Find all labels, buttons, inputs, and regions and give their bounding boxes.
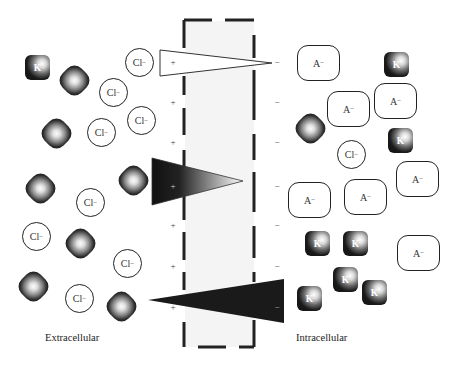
- chloride-ion: Cl−: [113, 249, 142, 278]
- plus-sign: +: [169, 97, 177, 107]
- chloride-ion: Cl−: [125, 48, 154, 77]
- potassium-ion: K: [362, 280, 387, 305]
- anion: A−: [288, 182, 331, 218]
- chloride-ion: Cl−: [76, 188, 105, 217]
- plus-sign: +: [169, 302, 177, 312]
- potassium-ion: K: [384, 52, 409, 77]
- minus-sign: −: [273, 57, 281, 67]
- extracellular-label: Extracellular: [45, 332, 99, 343]
- minus-sign: −: [273, 220, 281, 230]
- potassium-ion: K: [333, 267, 358, 292]
- minus-sign: −: [273, 137, 281, 147]
- anion: A−: [297, 45, 340, 81]
- membrane-potential-diagram: + + + + + + + − − − − − − − K Na Cl− Cl−…: [0, 0, 458, 365]
- plus-sign: +: [169, 220, 177, 230]
- sodium-gradient-triangle: [152, 158, 243, 205]
- anion: A−: [327, 91, 370, 127]
- minus-sign: −: [273, 261, 281, 271]
- plus-sign: +: [169, 261, 177, 271]
- chloride-ion: Cl−: [99, 78, 128, 107]
- chloride-ion: Cl−: [65, 284, 94, 313]
- plus-sign: +: [169, 137, 177, 147]
- plus-sign: +: [169, 181, 177, 191]
- potassium-gradient-triangle: [148, 279, 284, 323]
- intracellular-label: Intracellular: [296, 332, 347, 343]
- chloride-ion: Cl−: [22, 222, 51, 251]
- anion: A−: [344, 179, 387, 215]
- minus-sign: −: [273, 181, 281, 191]
- potassium-ion: K: [25, 55, 50, 80]
- chloride-ion: Cl−: [87, 118, 116, 147]
- anion: A−: [374, 83, 417, 119]
- potassium-ion: K: [343, 231, 368, 256]
- chloride-ion: Cl−: [337, 140, 366, 169]
- minus-sign: −: [273, 97, 281, 107]
- potassium-ion: K: [297, 286, 322, 311]
- plus-sign: +: [169, 57, 177, 67]
- anion: A−: [396, 161, 439, 197]
- potassium-ion: K: [388, 128, 413, 153]
- minus-sign: −: [273, 302, 281, 312]
- potassium-ion: K: [305, 231, 330, 256]
- anion: A−: [397, 235, 440, 271]
- chloride-ion: Cl−: [127, 106, 156, 135]
